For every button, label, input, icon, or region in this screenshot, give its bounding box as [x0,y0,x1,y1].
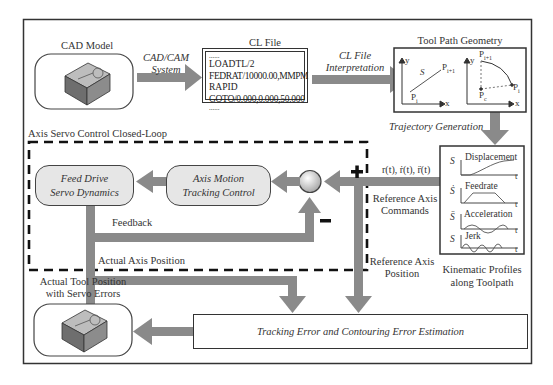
arrow-to-actual-tool [133,318,193,345]
reference-position-line1: Reference Axis [362,256,442,268]
arrow-controller-to-drive [136,170,167,193]
profile-label-jerk: Jerk [465,231,481,242]
profile-symbol-jerk: S⃛ [450,234,462,245]
cl-line: RAPID [209,82,301,94]
feed-drive-servo-dynamics-block: Feed DriveServo Dynamics [35,165,134,206]
profile-t-feedrate: t [515,200,517,210]
cadcam-label-line1: CAD/CAM [140,52,192,64]
actual-tool-title-line1: Actual Tool Position [30,276,136,288]
profile-label-feedrate: Feedrate [465,181,498,192]
profile-label-displacement: Displacement [465,152,517,163]
profile-symbol-acceleration: S̈ [450,212,455,223]
circular-y-label: y [470,55,475,65]
circular-end-label: Pi+1 [479,49,492,62]
circular-start-label: Pi [513,82,520,95]
axis-motion-tracking-control-block: Axis MotionTracking Control [166,165,271,206]
cl-line: LOADTL/2 [209,59,301,71]
linear-y-label: y [405,55,410,65]
cl-line: GOTO/0.000,0.000,50.000 [209,94,301,106]
reference-commands-line1: Reference Axis [365,193,445,205]
arrow-trajectory-generation [481,112,509,145]
reference-position-line2: Position [362,268,442,280]
cl-file-content: ...... LOADTL/2 FEDRAT/10000.00,MMPM RAP… [205,51,305,100]
cl-file-box: ...... LOADTL/2 FEDRAT/10000.00,MMPM RAP… [202,48,308,103]
summing-junction [299,171,321,193]
kinematic-caption-line1: Kinematic Profiles [432,264,532,276]
servo-loop-title: Axis Servo Control Closed-Loop [28,128,167,140]
arrow-error-to-controller [271,170,300,193]
kinematic-caption-line2: along Toolpath [432,277,532,289]
circular-x-label: x [515,98,520,108]
profile-t-acceleration: t [515,226,517,236]
reference-commands-line2: Commands [365,205,445,217]
profile-label-acceleration: Acceleration [464,209,513,220]
minus-sign-icon [320,219,331,223]
trajectory-generation-label: Trajectory Generation [389,121,483,133]
profile-t-jerk: t [515,245,517,255]
feedback-label: Feedback [112,217,152,229]
cl-line: FEDRAT/10000.00,MMPM [209,71,301,83]
cl-line: ...... [209,105,301,111]
cl-interp-label-line2: Interpretation [318,62,392,74]
cadcam-label-line2: System [140,64,192,76]
tool-path-geometry-title: Tool Path Geometry [394,35,526,47]
segment-s-label: S [420,67,425,77]
linear-start-label: Pi [411,92,418,105]
servo-loop-dashed-frame [29,142,367,270]
profile-symbol-displacement: S [450,156,455,167]
reference-formula: r(t), ṙ(t), r̈(t) [382,164,430,176]
actual-axis-position-label: Actual Axis Position [98,255,185,267]
linear-end-label: Pi+1 [442,62,455,75]
cl-interp-label-line1: CL File [322,50,388,62]
profile-symbol-feedrate: Ṡ [450,186,455,197]
cad-model-title: CAD Model [54,40,120,52]
linear-x-label: x [445,98,450,108]
profile-t-displacement: t [515,172,517,182]
error-estimation-block: Tracking Error and Contouring Error Esti… [193,314,528,349]
plus-sign-icon [351,166,363,179]
circular-center-label: Pc [479,90,487,103]
actual-tool-title-line2: with Servo Errors [30,288,136,300]
